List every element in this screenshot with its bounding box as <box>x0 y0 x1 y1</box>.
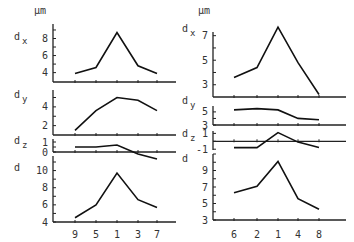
panel-dy: dy24 <box>14 89 176 136</box>
series-line <box>234 27 319 94</box>
y-tick-label: 8 <box>42 182 48 193</box>
y-tick-label: 6 <box>42 199 48 210</box>
y-tick-label: 0 <box>42 147 48 158</box>
series-line <box>234 161 319 209</box>
x-tick-label: 1 <box>275 229 281 240</box>
panel-dx: dx357 <box>182 23 346 98</box>
panel-label: dz <box>14 135 27 150</box>
y-tick-label: 1 <box>202 128 208 139</box>
y-tick-label: 7 <box>202 30 208 41</box>
panel-label: dx <box>182 23 196 38</box>
y-tick-label: 4 <box>42 217 48 228</box>
x-tick-label: 6 <box>231 229 237 240</box>
x-tick-label: 8 <box>316 229 322 240</box>
panel-label: dz <box>182 128 195 143</box>
x-tick-label: 1 <box>114 229 120 240</box>
panel-label: dy <box>14 89 28 104</box>
panel-dz: dz-11 <box>182 128 346 155</box>
y-tick-label: 4 <box>42 101 48 112</box>
y-tick-label: -1 <box>196 144 208 155</box>
panel-label: dx <box>14 31 28 46</box>
y-tick-label: 8 <box>42 33 48 44</box>
unit-label: µm <box>198 5 210 16</box>
y-tick-label: 3 <box>202 215 208 226</box>
x-tick-label: 2 <box>254 229 260 240</box>
series-line <box>234 109 319 120</box>
chart-canvas: µmdx468dy24dz01d4681095137µmdx357dy35dz-… <box>0 0 354 242</box>
y-tick-label: 4 <box>42 67 48 78</box>
panel-dz: dz01 <box>14 135 176 159</box>
y-tick-label: 5 <box>202 198 208 209</box>
panel-d: d46810 <box>14 156 176 228</box>
y-tick-label: 5 <box>202 106 208 117</box>
panel-label: d <box>182 153 188 164</box>
x-tick-label: 9 <box>72 229 78 240</box>
panel-label: d <box>14 162 20 173</box>
panel-dy: dy35 <box>182 95 346 131</box>
panel-dx: dx468 <box>14 24 176 83</box>
series-line <box>75 33 157 74</box>
x-tick-label: 4 <box>295 229 301 240</box>
y-tick-label: 10 <box>36 165 48 176</box>
y-tick-label: 3 <box>202 79 208 90</box>
y-tick-label: 9 <box>202 165 208 176</box>
y-tick-label: 7 <box>202 182 208 193</box>
series-line <box>234 133 319 148</box>
series-line <box>75 173 157 218</box>
panel-label: dy <box>182 95 196 110</box>
panel-d: d3579 <box>182 153 346 226</box>
y-tick-label: 1 <box>42 137 48 148</box>
y-tick-label: 5 <box>202 55 208 66</box>
x-tick-label: 5 <box>93 229 99 240</box>
unit-label: µm <box>34 5 46 16</box>
right-figure: µmdx357dy35dz-11d357962148 <box>182 5 346 240</box>
series-line <box>75 98 157 131</box>
y-tick-label: 6 <box>42 50 48 61</box>
x-tick-label: 7 <box>154 229 160 240</box>
x-tick-label: 3 <box>135 229 141 240</box>
y-tick-label: 2 <box>42 120 48 131</box>
left-figure: µmdx468dy24dz01d4681095137 <box>14 5 176 240</box>
